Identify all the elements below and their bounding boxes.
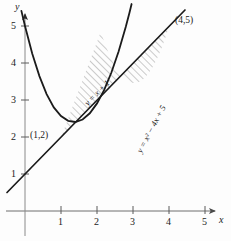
x-tick-marks [61, 206, 205, 214]
point-label-4-5: (4,5) [175, 16, 193, 26]
x-tick-label-1: 1 [58, 217, 63, 227]
line-curve [7, 10, 185, 193]
y-tick-label-4: 4 [11, 58, 16, 68]
y-tick-label-3: 3 [11, 95, 16, 105]
x-tick-label-3: 3 [130, 217, 135, 227]
x-tick-label-4: 4 [166, 217, 171, 227]
y-tick-label-1: 1 [11, 169, 16, 179]
y-tick-label-2: 2 [11, 132, 16, 142]
plot-canvas [0, 0, 231, 241]
y-axis-label: y [15, 2, 19, 12]
point-label-1-2: (1,2) [30, 131, 48, 141]
x-tick-label-2: 2 [94, 217, 99, 227]
y-tick-label-5: 5 [11, 21, 16, 31]
x-tick-label-5: 5 [202, 217, 207, 227]
x-axis-label: x [219, 215, 223, 225]
graph-figure: 5 4 3 2 1 1 2 3 4 5 y x (1,2) (4,5) y = … [0, 0, 231, 241]
